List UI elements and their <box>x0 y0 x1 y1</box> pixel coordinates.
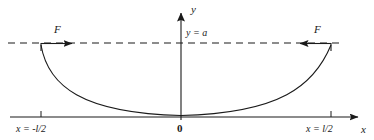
level-line-label: y = a <box>186 28 207 38</box>
diagram-canvas <box>0 0 374 140</box>
x-axis-label: x <box>361 124 366 135</box>
catenary-curve <box>41 45 331 116</box>
physics-diagram: y x y = a F F x = -l/2 x = l/2 0 <box>0 0 374 140</box>
force-label-left: F <box>54 24 61 35</box>
tick-label-left: x = -l/2 <box>16 124 46 134</box>
tick-label-right: x = l/2 <box>306 124 333 134</box>
y-axis-label: y <box>191 4 196 15</box>
force-label-right: F <box>314 24 321 35</box>
origin-label: 0 <box>177 123 183 134</box>
